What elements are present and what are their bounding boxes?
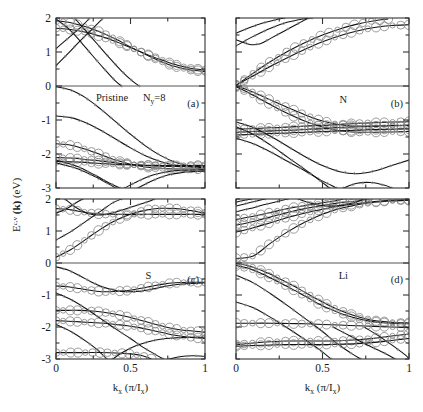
- panel-annotation-ny: Ny=8: [143, 92, 166, 106]
- y-tick-label: -1: [41, 289, 51, 301]
- y-tick-label: -1: [41, 114, 51, 126]
- x-tick-label: 1: [406, 362, 412, 374]
- band-curves-c: [52, 198, 209, 364]
- panel-label-b: (b): [391, 98, 404, 110]
- y-tick-label: -2: [41, 148, 51, 160]
- band-curve-v4: [236, 302, 331, 359]
- panel-b: N(b): [231, 15, 414, 189]
- band-curve-v9: [343, 182, 391, 188]
- panel-annotation-d: Li: [339, 270, 348, 281]
- y-tick-label: 1: [45, 225, 51, 237]
- x-tick-label: 0: [233, 362, 239, 374]
- panel-label-a: (a): [187, 98, 199, 110]
- band-curves-b: [231, 15, 414, 189]
- x-tick-label: 0: [53, 362, 59, 374]
- band-curve-c1: [56, 21, 205, 72]
- y-tick-label: 0: [45, 257, 51, 269]
- band-curve-v1: [236, 264, 409, 323]
- band-curve-v6: [56, 324, 107, 359]
- band-curves-d: [231, 195, 414, 360]
- figure-canvas: -3-2-1012PristineNy=8(a)N(b)-3-2-101200.…: [0, 0, 423, 412]
- panel-annotation-c: S: [145, 270, 151, 281]
- panel-annotation-pristine: Pristine: [96, 92, 128, 103]
- panel-c: -3-2-101200.51S(c): [41, 193, 208, 374]
- x-tick-label: 1: [202, 362, 208, 374]
- y-tick-label: -2: [41, 321, 51, 333]
- x-axis-label: kx (π/Ix): [113, 381, 149, 396]
- x-tick-label: 0.5: [123, 362, 138, 374]
- y-tick-label: 1: [45, 46, 51, 58]
- x-axis-label-group-d: kx (π/Ix): [305, 381, 341, 396]
- band-curves-a: [52, 17, 209, 189]
- panel-label-d: (d): [391, 274, 404, 286]
- y-axis-label-group: Ec,v (k) (eV): [10, 178, 23, 233]
- panel-label-c: (c): [187, 274, 199, 286]
- x-axis-label: kx (π/Ix): [305, 381, 341, 396]
- y-tick-label: 2: [45, 12, 51, 24]
- panel-a: -3-2-1012PristineNy=8(a): [41, 12, 208, 194]
- panel-annotation-b: N: [340, 94, 348, 105]
- band-structure-figure: -3-2-1012PristineNy=8(a)N(b)-3-2-101200.…: [0, 0, 423, 412]
- plot-frame-d: [236, 199, 409, 359]
- band-curve-v2: [236, 266, 409, 324]
- band-curve-c5: [236, 18, 309, 45]
- x-tick-label: 0.5: [315, 362, 330, 374]
- y-tick-label: -3: [41, 353, 51, 365]
- plot-frame-c: [56, 199, 205, 359]
- y-tick-label: 0: [45, 80, 51, 92]
- band-curve-v1: [56, 87, 205, 167]
- panel-d: 00.51Li(d): [231, 195, 414, 374]
- y-tick-label: 2: [45, 193, 51, 205]
- y-axis-label: Ec,v (k) (eV): [10, 178, 23, 233]
- x-axis-label-group-c: kx (π/Ix): [113, 381, 149, 396]
